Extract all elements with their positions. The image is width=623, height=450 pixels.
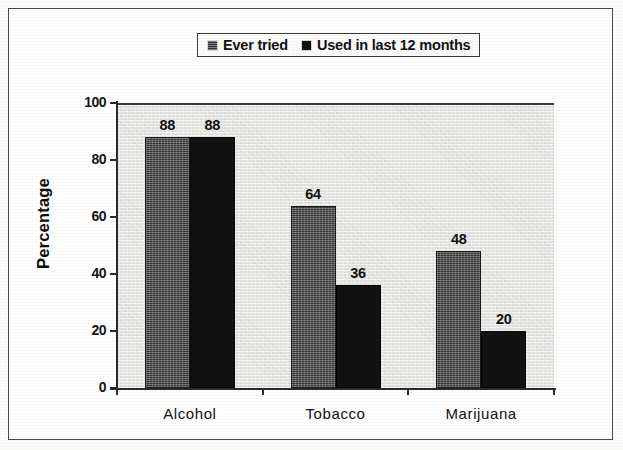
y-axis-line xyxy=(116,101,118,390)
x-tick-mark-marijuana xyxy=(553,388,555,395)
x-axis-line xyxy=(110,388,556,390)
bar-value-label-alcohol-series-0: 88 xyxy=(145,117,190,133)
scanned-page: Ever tried Used in last 12 months Percen… xyxy=(0,0,623,450)
y-tick-label-80: 80 xyxy=(66,151,106,167)
bar-tobacco-series-1 xyxy=(336,285,381,388)
y-tick-mark-20 xyxy=(110,330,117,332)
plot-area xyxy=(117,103,554,388)
legend-swatch-solid-icon xyxy=(301,40,312,51)
bar-alcohol-series-1 xyxy=(190,137,235,388)
y-tick-label-100: 100 xyxy=(66,94,106,110)
chart-legend: Ever tried Used in last 12 months xyxy=(197,33,480,57)
bar-value-label-marijuana-series-1: 20 xyxy=(481,311,526,327)
y-tick-mark-60 xyxy=(110,216,117,218)
bar-value-label-marijuana-series-0: 48 xyxy=(436,231,481,247)
y-tick-mark-100 xyxy=(110,102,117,104)
bar-value-label-tobacco-series-0: 64 xyxy=(291,186,336,202)
category-label-tobacco: Tobacco xyxy=(256,405,416,422)
legend-label-used-last-12-months: Used in last 12 months xyxy=(317,37,471,53)
bar-marijuana-series-0 xyxy=(436,251,481,388)
x-tick-mark-tobacco xyxy=(407,388,409,395)
bar-marijuana-series-1 xyxy=(481,331,526,388)
bar-alcohol-series-0 xyxy=(145,137,190,388)
bar-value-label-tobacco-series-1: 36 xyxy=(336,265,381,281)
y-axis-tick-labels: 020406080100 xyxy=(61,9,106,450)
legend-label-ever-tried: Ever tried xyxy=(223,37,288,53)
legend-entry-used-last-12-months: Used in last 12 months xyxy=(301,37,471,53)
y-tick-label-60: 60 xyxy=(66,208,106,224)
legend-swatch-hatched-icon xyxy=(207,40,218,51)
bar-tobacco-series-0 xyxy=(291,206,336,388)
y-tick-mark-80 xyxy=(110,159,117,161)
y-tick-mark-40 xyxy=(110,273,117,275)
category-label-alcohol: Alcohol xyxy=(110,405,270,422)
legend-entry-ever-tried: Ever tried xyxy=(207,37,288,53)
y-axis-title: Percentage xyxy=(34,144,53,304)
bar-value-label-alcohol-series-1: 88 xyxy=(190,117,235,133)
y-tick-label-0: 0 xyxy=(66,379,106,395)
x-tick-mark-origin xyxy=(116,388,118,395)
category-label-marijuana: Marijuana xyxy=(401,405,561,422)
y-tick-label-40: 40 xyxy=(66,265,106,281)
x-tick-mark-alcohol xyxy=(262,388,264,395)
y-tick-label-20: 20 xyxy=(66,322,106,338)
chart-outer-frame: Ever tried Used in last 12 months Percen… xyxy=(8,8,613,440)
